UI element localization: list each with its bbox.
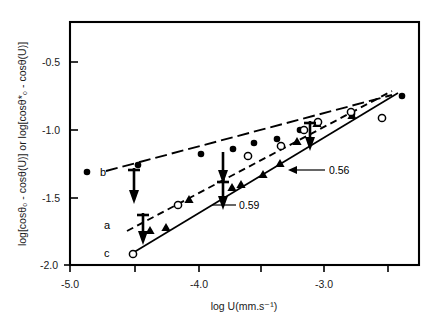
data-point [129,250,136,257]
chart-figure: -0.5 -1.0 -1.5 -2.0 -5.0 -4.0 -3.0 log U… [0,0,438,321]
curve-labels: b a c [100,166,111,259]
data-point [347,108,354,115]
x-tick-label: -4.0 [190,278,208,290]
data-point [135,162,142,169]
data-points-a [145,111,356,234]
y-tick-label: -2.0 [40,259,58,271]
x-tick-label: -3.0 [315,278,333,290]
down-arrow [137,213,149,245]
data-point [378,114,385,121]
x-axis-label: log U(mm.s⁻¹) [211,300,278,312]
curve-label-c: c [104,247,110,259]
slope-annotation-056: 0.56 [288,164,350,176]
slope-label: 0.59 [239,199,260,211]
slope-label: 0.56 [329,164,350,176]
data-point [251,140,258,147]
data-point [230,146,237,153]
data-point [300,126,307,133]
data-point [84,169,91,176]
series-b [84,93,406,176]
y-tick-label: -1.5 [42,192,60,204]
data-point [174,201,181,208]
y-axis-tick-labels: -0.5 -1.0 -1.5 -2.0 [40,56,60,271]
data-point [277,142,284,149]
down-arrow [128,168,140,204]
plot-frame [70,22,419,265]
data-point [399,93,406,100]
data-point [292,137,301,145]
data-point [198,151,205,158]
y-axis-label: log[cosθ₀ - cosθ(U)] or log[cosθ*₀ - cos… [16,42,28,246]
x-axis-tick-labels: -5.0 -4.0 -3.0 [61,278,333,290]
data-point [274,136,281,143]
data-point [227,183,236,191]
y-tick-label: -0.5 [42,56,60,68]
y-tick-label: -1.0 [42,124,60,136]
data-point [161,223,170,231]
x-tick-label: -5.0 [61,278,79,290]
data-point [244,152,251,159]
down-arrow [218,152,228,184]
curve-label-a: a [104,219,111,231]
curve-label-b: b [100,166,106,178]
fit-line-c [131,93,398,254]
